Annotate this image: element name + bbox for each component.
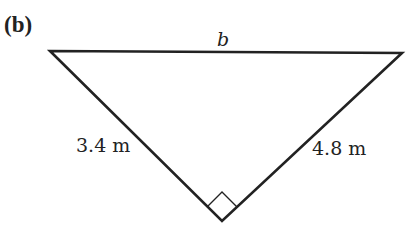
- right-angle-marker: [207, 192, 237, 207]
- triangle-diagram: (b) b 3.4 m 4.8 m: [0, 0, 418, 236]
- right-side-label: 4.8 m: [312, 137, 366, 159]
- left-side-label: 3.4 m: [76, 134, 130, 156]
- part-label: (b): [4, 12, 32, 37]
- top-side-label: b: [217, 28, 229, 50]
